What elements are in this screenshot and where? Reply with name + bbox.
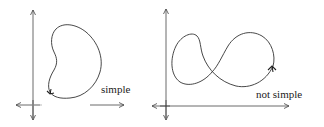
right-panel: not simple [152, 9, 302, 120]
left-axes [16, 10, 124, 120]
simple-curve-arrow-icon [47, 89, 54, 94]
not-simple-label: not simple [256, 88, 302, 100]
not-simple-curve-arrow-icon [268, 66, 276, 72]
curves-diagram: simple not simple [0, 0, 324, 127]
left-panel: simple [16, 10, 130, 120]
simple-label: simple [101, 83, 130, 95]
right-axes [152, 9, 289, 120]
simple-curve [49, 25, 102, 99]
not-simple-curve [172, 33, 274, 87]
